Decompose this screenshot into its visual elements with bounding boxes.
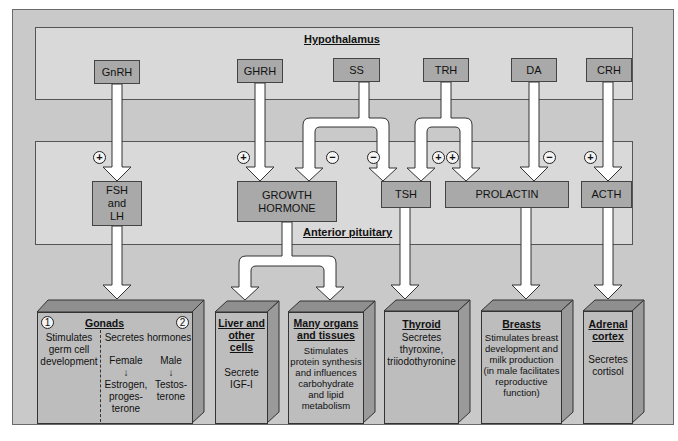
liver-desc-line: Secrete — [224, 367, 258, 378]
gonads-left-line: Stimulates — [38, 332, 100, 344]
adrenal-face: Adrenal cortex Secretes cortisol — [583, 311, 633, 424]
female-hormone-line: Estrogen, — [104, 379, 148, 391]
liver-title-line: other cells — [228, 329, 254, 353]
gonads-divider — [100, 330, 101, 422]
gonads-right-heading: Secretes hormones — [102, 332, 194, 344]
organs-title: Many organs and tissues — [289, 317, 363, 341]
breasts-desc-line: (in male facilitates — [483, 365, 559, 376]
male-hormone-line: terone — [150, 391, 192, 403]
liver-title: Liver and other cells — [216, 317, 267, 353]
organs-face: Many organs and tissues Stimulates prote… — [288, 312, 364, 424]
breasts-desc: Stimulates breast development and milk p… — [482, 332, 561, 398]
gonads-face: 1 2 Gonads Stimulates germ cell developm… — [37, 312, 193, 424]
organs-desc-line: carbohydrate — [298, 378, 353, 389]
liver-face: Liver and other cells Secrete IGF-I — [215, 312, 268, 424]
hypothalamic-pituitary-diagram: Hypothalamus Anterior pituitary — [0, 0, 678, 441]
gonads-left-text: Stimulates germ cell development — [38, 332, 100, 368]
thyroid-face: Thyroid Secretes thyroxine, triiodothyro… — [384, 311, 459, 424]
organs-desc-line: protein synthesis — [290, 356, 361, 367]
organs-desc-line: metabolism — [302, 400, 351, 411]
thyroid-title: Thyroid — [385, 318, 458, 330]
breasts-desc-line: milk production — [490, 354, 554, 365]
female-hormone-line: proges- — [104, 391, 148, 403]
gonads-left-line: development — [38, 356, 100, 368]
organs-title-line: Many organs — [294, 317, 359, 329]
male-label: Male — [150, 355, 192, 367]
gonads-male: Male ↓ Testos- terone — [150, 355, 192, 403]
gonads-left-line: germ cell — [38, 344, 100, 356]
organs-desc: Stimulates protein synthesis and influen… — [289, 345, 363, 411]
breasts-desc-line: Stimulates breast — [485, 332, 558, 343]
male-hormone-line: Testos- — [150, 379, 192, 391]
breasts-face: Breasts Stimulates breast development an… — [481, 311, 562, 424]
breasts-desc-line: development and — [485, 343, 558, 354]
adrenal-title: Adrenal cortex — [584, 318, 632, 342]
female-arrow-icon: ↓ — [104, 367, 148, 379]
gonads-female: Female ↓ Estrogen, proges- terone — [104, 355, 148, 415]
adrenal-title-line: Adrenal — [588, 318, 627, 330]
female-label: Female — [104, 355, 148, 367]
adrenal-desc-line: cortisol — [592, 366, 624, 377]
organs-desc-line: Stimulates — [304, 345, 348, 356]
thyroid-desc-line: Secretes — [402, 332, 441, 343]
gonads-marker-2: 2 — [176, 316, 189, 329]
liver-desc: Secrete IGF-I — [216, 367, 267, 391]
breasts-title: Breasts — [482, 318, 561, 330]
gonads-title: Gonads — [85, 317, 124, 329]
breasts-desc-line: reproductive — [495, 376, 547, 387]
gonads-marker-1: 1 — [41, 316, 54, 329]
female-hormone-line: terone — [104, 403, 148, 415]
organs-desc-line: and influences — [295, 367, 356, 378]
organs-title-line: and tissues — [297, 329, 355, 341]
thyroid-desc: Secretes thyroxine, triiodothyronine — [385, 332, 458, 368]
adrenal-desc: Secretes cortisol — [584, 354, 632, 378]
breasts-desc-line: function) — [503, 387, 539, 398]
thyroid-desc-line: thyroxine, — [400, 344, 443, 355]
liver-desc-line: IGF-I — [230, 379, 253, 390]
adrenal-title-line: cortex — [592, 330, 624, 342]
thyroid-desc-line: triiodothyronine — [387, 356, 455, 367]
liver-title-line: Liver and — [218, 317, 265, 329]
male-arrow-icon: ↓ — [150, 367, 192, 379]
organs-desc-line: and lipid — [308, 389, 343, 400]
adrenal-desc-line: Secretes — [588, 354, 627, 365]
